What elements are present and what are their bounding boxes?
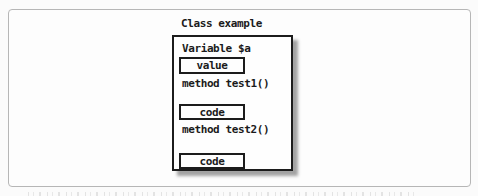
value-box: value bbox=[179, 57, 245, 74]
value-box-label: value bbox=[196, 59, 227, 72]
method2-label: method test2() bbox=[182, 123, 269, 136]
method2-code-box: code bbox=[179, 153, 245, 169]
method1-code-box: code bbox=[179, 104, 245, 120]
method1-code-box-label: code bbox=[200, 106, 225, 119]
class-diagram-title: Class example bbox=[181, 17, 262, 30]
cropped-caption-remnant bbox=[28, 192, 418, 196]
variable-label: Variable $a bbox=[182, 42, 250, 55]
method1-label: method test1() bbox=[182, 77, 269, 90]
class-box: Variable $a value method test1() code me… bbox=[172, 35, 293, 171]
method2-code-box-label: code bbox=[200, 155, 225, 168]
